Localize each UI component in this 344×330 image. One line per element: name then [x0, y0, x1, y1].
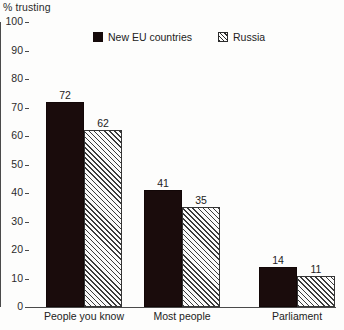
legend-item-new-eu-countries: New EU countries — [93, 31, 192, 43]
bar: 41 — [144, 190, 182, 307]
y-axis-tick-label: 30 — [11, 215, 23, 227]
bar-value-label: 41 — [157, 177, 169, 189]
y-axis-tick-label: 60 — [11, 129, 23, 141]
category-label: People you know — [44, 310, 124, 322]
bar: 35 — [182, 207, 220, 307]
y-axis-tick-label: 50 — [11, 158, 23, 170]
y-axis-tick-label: 10 — [11, 272, 23, 284]
bar: 62 — [84, 130, 122, 307]
y-axis-tick-mark — [25, 79, 29, 80]
y-axis-tick-mark — [25, 222, 29, 223]
legend-swatch-solid-icon — [93, 32, 103, 42]
y-axis-tick-mark — [25, 279, 29, 280]
bar-value-label: 14 — [272, 254, 284, 266]
y-axis-tick-label: 80 — [11, 72, 23, 84]
y-axis-tick-mark — [25, 193, 29, 194]
category-label: Most people — [153, 310, 210, 322]
y-axis-tick-mark — [25, 108, 29, 109]
y-axis-tick-label: 20 — [11, 243, 23, 255]
chart-legend: New EU countries Russia — [93, 31, 265, 43]
y-axis-tick-mark — [25, 22, 29, 23]
y-axis-tick-mark — [25, 136, 29, 137]
y-axis-tick-label: 70 — [11, 101, 23, 113]
bar: 72 — [46, 102, 84, 307]
y-axis-tick-mark — [25, 250, 29, 251]
bar-value-label: 11 — [311, 263, 322, 275]
y-axis-tick-label: 90 — [11, 44, 23, 56]
legend-label-new-eu-countries: New EU countries — [108, 31, 192, 43]
y-axis-tick-label: 40 — [11, 186, 23, 198]
bar: 11 — [297, 276, 335, 307]
bar-value-label: 35 — [195, 194, 207, 206]
y-axis-tick-mark — [25, 51, 29, 52]
bar-value-label: 62 — [97, 117, 109, 129]
bar-value-label: 72 — [59, 89, 71, 101]
legend-swatch-hatch-icon — [218, 32, 228, 42]
bar: 14 — [259, 267, 297, 307]
x-axis-line — [29, 307, 336, 308]
y-axis-tick-mark — [25, 165, 29, 166]
y-axis-unit-label: % trusting — [3, 1, 51, 13]
y-axis-tick-label: 0 — [17, 300, 23, 312]
y-axis-tick-label: 100 — [5, 15, 23, 27]
legend-item-russia: Russia — [218, 31, 265, 43]
bar-chart: % trusting 0102030405060708090100 New EU… — [0, 0, 344, 330]
y-axis-tick-mark — [25, 307, 29, 308]
category-label: Parliament — [272, 310, 322, 322]
y-axis-line — [0, 22, 1, 307]
legend-label-russia: Russia — [233, 31, 265, 43]
